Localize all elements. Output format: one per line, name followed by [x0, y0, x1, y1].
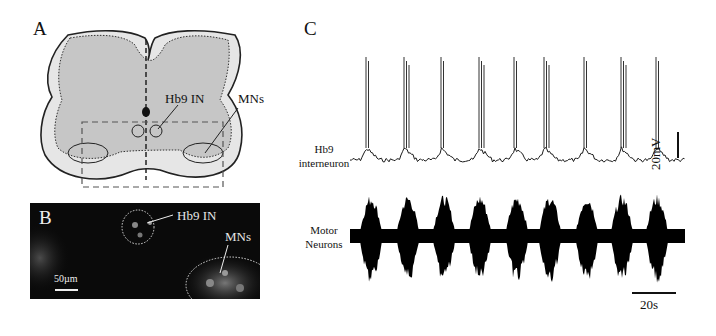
ephys-traces	[0, 0, 716, 336]
time-scale-label: 20s	[640, 297, 658, 313]
voltage-scale-label: 20mV	[648, 138, 664, 171]
